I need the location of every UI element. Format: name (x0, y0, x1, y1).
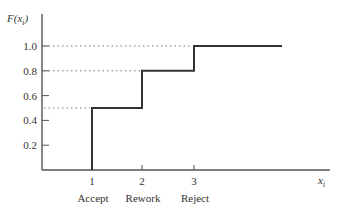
reference-lines (44, 46, 192, 108)
x-tick-labels: 1Accept2Rework3Reject (77, 175, 209, 204)
y-tick-label: 0.4 (23, 114, 37, 126)
x-category-label: Rework (126, 192, 161, 204)
y-axis-title: F(xi) (6, 12, 29, 27)
y-tick-label: 1.0 (23, 40, 37, 52)
cdf-step-chart: 0.20.40.60.81.0 1Accept2Rework3Reject F(… (0, 0, 344, 214)
axes (42, 14, 330, 170)
y-tick-label: 0.8 (23, 65, 37, 77)
x-tick-label: 2 (139, 175, 145, 187)
y-tick-label: 0.6 (23, 90, 37, 102)
x-category-label: Reject (181, 192, 209, 204)
step-series (92, 46, 282, 170)
x-tick-label: 1 (89, 175, 95, 187)
x-category-label: Accept (77, 192, 108, 204)
y-tick-labels: 0.20.40.60.81.0 (23, 40, 37, 151)
cdf-step-line (92, 46, 282, 170)
x-axis-title: xi (317, 174, 325, 189)
x-tick-label: 3 (191, 175, 197, 187)
y-tick-label: 0.2 (23, 139, 37, 151)
